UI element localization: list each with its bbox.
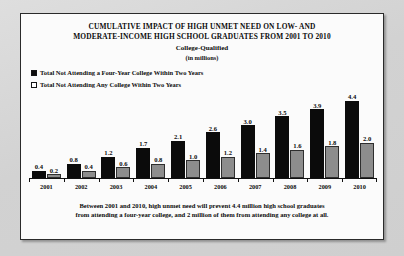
bar-four-year: 3.5 [275, 92, 289, 178]
x-axis-tick [99, 179, 100, 182]
bar-rect [275, 116, 289, 177]
legend-swatch-open-icon [31, 82, 37, 88]
bar-four-year: 3.9 [310, 92, 324, 178]
bar-rect [186, 160, 200, 178]
bar-value-label: 1.4 [259, 146, 267, 153]
x-axis-tick [168, 179, 169, 182]
bar-group: 1.20.6 [99, 92, 134, 178]
bar-rect [241, 125, 255, 178]
legend-swatch-filled-icon [31, 70, 37, 76]
bar-rect [206, 132, 220, 178]
bar-any-college: 0.6 [116, 92, 130, 178]
bar-value-label: 1.8 [328, 139, 336, 146]
x-axis-tick [376, 179, 377, 182]
bar-group: 2.61.2 [203, 92, 238, 178]
legend-label-four-year: Total Not Attending a Four-Year College … [40, 68, 203, 78]
chart-units-label: (in millions) [21, 54, 383, 63]
bar-rect [345, 101, 359, 178]
bar-value-label: 0.4 [35, 163, 43, 170]
bar-value-label: 1.2 [224, 149, 232, 156]
legend-label-any-college: Total Not Attending Any College Within T… [40, 80, 181, 90]
bar-value-label: 3.9 [313, 102, 321, 109]
footnote-block: Between 2001 and 2010, high unmet need w… [21, 201, 383, 220]
bar-value-label: 0.8 [154, 156, 162, 163]
bar-rect [290, 150, 304, 178]
x-axis [29, 178, 377, 182]
bar-rect [151, 164, 165, 178]
x-axis-tick [273, 179, 274, 182]
bar-rect [32, 171, 46, 178]
x-axis-label: 2002 [75, 183, 88, 190]
x-axis-tick [29, 179, 30, 182]
x-axis-label: 2004 [145, 183, 158, 190]
x-axis-tick [133, 179, 134, 182]
bar-four-year: 4.4 [345, 92, 359, 178]
x-axis-label: 2010 [353, 183, 366, 190]
x-axis-label: 2005 [179, 183, 192, 190]
bar-value-label: 3.0 [244, 118, 252, 125]
bar-four-year: 1.2 [101, 92, 115, 178]
bar-value-label: 1.0 [189, 153, 197, 160]
bar-rect [171, 141, 185, 178]
x-axis-tick [64, 179, 65, 182]
bar-rect [325, 146, 339, 178]
bar-four-year: 3.0 [241, 92, 255, 178]
bar-any-college: 1.6 [290, 92, 304, 178]
bar-any-college: 0.2 [47, 92, 61, 178]
bar-group: 1.70.8 [133, 92, 168, 178]
x-axis-tick [238, 179, 239, 182]
bar-rect [82, 171, 96, 178]
bar-value-label: 1.7 [139, 140, 147, 147]
x-axis-tick-labels: 2001200220032004200520062007200820092010 [29, 183, 377, 194]
bar-rect [101, 157, 115, 178]
chart-title-line-1: CUMULATIVE IMPACT OF HIGH UNMET NEED ON … [21, 22, 383, 32]
bar-rect [256, 153, 270, 178]
bar-four-year: 0.8 [67, 92, 81, 178]
bar-four-year: 2.6 [206, 92, 220, 178]
legend-item-four-year: Total Not Attending a Four-Year College … [31, 68, 383, 78]
plot-area: 0.40.20.80.41.20.61.70.82.11.02.61.23.01… [29, 92, 377, 178]
figure-panel: CUMULATIVE IMPACT OF HIGH UNMET NEED ON … [20, 13, 384, 240]
bar-rect [310, 109, 324, 177]
bar-any-college: 2.0 [360, 92, 374, 178]
bar-value-label: 1.6 [293, 142, 301, 149]
bar-value-label: 2.6 [209, 125, 217, 132]
bar-group: 4.42.0 [342, 92, 377, 178]
footnote-line-2: from attending a four-year college, and … [21, 210, 383, 220]
bar-any-college: 0.4 [82, 92, 96, 178]
bar-any-college: 1.2 [221, 92, 235, 178]
x-axis-tick [203, 179, 204, 182]
bar-value-label: 0.2 [50, 167, 58, 174]
legend-item-any-college: Total Not Attending Any College Within T… [31, 80, 383, 90]
bar-value-label: 0.8 [70, 156, 78, 163]
chart-title-line-2: MODERATE-INCOME HIGH SCHOOL GRADUATES FR… [21, 32, 383, 42]
x-axis-label: 2001 [40, 183, 53, 190]
bar-value-label: 4.4 [348, 93, 356, 100]
x-axis-label: 2009 [319, 183, 332, 190]
x-axis-tick [307, 179, 308, 182]
bar-rect [116, 167, 130, 178]
bar-four-year: 1.7 [136, 92, 150, 178]
bar-four-year: 0.4 [32, 92, 46, 178]
chart-subtitle: College-Qualified [21, 44, 383, 54]
bar-rect [221, 157, 235, 178]
bar-rect [136, 148, 150, 178]
bar-four-year: 2.1 [171, 92, 185, 178]
scanned-page: CUMULATIVE IMPACT OF HIGH UNMET NEED ON … [0, 0, 404, 256]
footnote-line-1: Between 2001 and 2010, high unmet need w… [21, 201, 383, 211]
x-axis-label: 2008 [284, 183, 297, 190]
bar-value-label: 1.2 [104, 149, 112, 156]
bar-any-college: 0.8 [151, 92, 165, 178]
bar-any-college: 1.4 [256, 92, 270, 178]
bar-group: 3.91.8 [307, 92, 342, 178]
bar-value-label: 0.6 [119, 160, 127, 167]
bar-any-college: 1.0 [186, 92, 200, 178]
bar-any-college: 1.8 [325, 92, 339, 178]
bar-value-label: 2.0 [363, 135, 371, 142]
x-axis-label: 2003 [110, 183, 123, 190]
title-block: CUMULATIVE IMPACT OF HIGH UNMET NEED ON … [21, 14, 383, 62]
bar-value-label: 2.1 [174, 133, 182, 140]
bar-group: 3.01.4 [238, 92, 273, 178]
bar-value-label: 0.4 [85, 163, 93, 170]
bar-group: 3.51.6 [273, 92, 308, 178]
